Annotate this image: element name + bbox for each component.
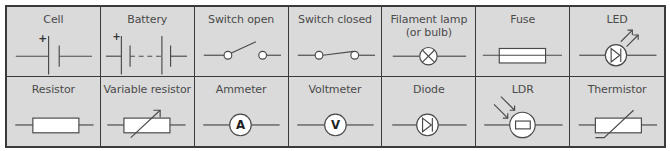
led-icon <box>570 7 664 76</box>
switch-closed-icon <box>289 7 382 76</box>
circuit-symbols-table: Cell + Battery + Switch open <box>5 5 666 148</box>
switch-closed-cell: Switch closed <box>289 7 383 77</box>
voltmeter-icon: V <box>289 77 382 147</box>
thermistor-cell: Thermistor <box>570 77 664 147</box>
thermistor-icon <box>570 77 664 147</box>
variable-resistor-icon <box>101 77 194 147</box>
led-cell: LED <box>570 7 664 77</box>
battery-cell: Battery + <box>101 7 195 77</box>
switch-open-icon <box>195 7 288 76</box>
plus-sign: + <box>38 32 47 45</box>
ldr-icon <box>476 77 569 147</box>
diode-icon <box>382 77 475 147</box>
ammeter-letter: A <box>236 118 246 132</box>
resistor-icon <box>7 77 100 147</box>
voltmeter-letter: V <box>330 118 340 132</box>
cell-cell: Cell + <box>7 7 101 77</box>
voltmeter-cell: Voltmeter V <box>289 77 383 147</box>
ammeter-cell: Ammeter A <box>195 77 289 147</box>
switch-open-cell: Switch open <box>195 7 289 77</box>
ammeter-icon: A <box>195 77 288 147</box>
fuse-cell: Fuse <box>476 7 570 77</box>
variable-resistor-cell: Variable resistor <box>101 77 195 147</box>
cell-icon: + <box>7 7 100 76</box>
plus-sign: + <box>112 31 120 42</box>
filament-lamp-cell: Filament lamp (or bulb) <box>382 7 476 77</box>
fuse-icon <box>476 7 569 76</box>
ldr-cell: LDR <box>476 77 570 147</box>
battery-icon: + <box>101 7 194 76</box>
diode-cell: Diode <box>382 77 476 147</box>
resistor-cell: Resistor <box>7 77 101 147</box>
filament-lamp-icon <box>382 7 475 76</box>
